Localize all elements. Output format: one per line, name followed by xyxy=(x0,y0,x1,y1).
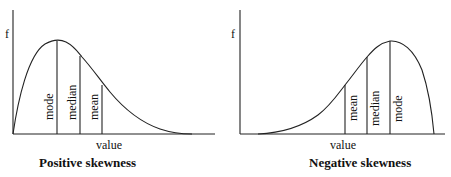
mean-label: mean xyxy=(346,95,360,121)
chart-title: Negative skewness xyxy=(309,155,411,170)
y-axis-label: f xyxy=(5,27,9,41)
chart-title: Positive skewness xyxy=(39,155,136,170)
x-axis-label: value xyxy=(96,138,122,152)
skewness-diagram: f mode median mean value Positive skewne… xyxy=(0,0,451,177)
median-label: median xyxy=(368,91,382,126)
x-axis-label: value xyxy=(330,138,356,152)
mean-label: mean xyxy=(87,94,101,120)
positive-skewness-chart: f mode median mean value Positive skewne… xyxy=(5,10,215,170)
y-axis-label: f xyxy=(231,27,235,41)
median-label: median xyxy=(65,85,79,120)
mode-label: mode xyxy=(42,93,56,120)
negative-skewness-chart: f mean median mode value Negative skewne… xyxy=(231,10,445,170)
mode-label: mode xyxy=(391,95,405,122)
